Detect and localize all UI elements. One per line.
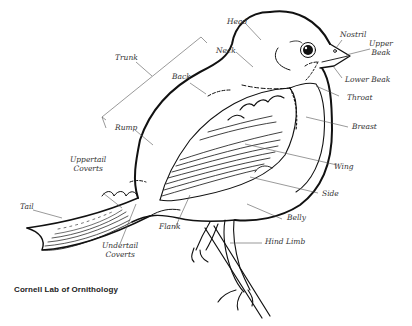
label-nostril: Nostril (340, 31, 366, 40)
label-uppertail-coverts: Uppertail Coverts (70, 156, 106, 173)
wing (160, 88, 296, 201)
leader-lines (33, 24, 370, 244)
label-back: Back (172, 73, 191, 82)
label-upper-beak-line2: Beak (369, 49, 393, 58)
under-body (132, 209, 235, 222)
eye (290, 41, 316, 58)
label-belly: Belly (287, 214, 306, 223)
label-wing: Wing (334, 163, 354, 172)
label-upper-beak: Upper Beak (369, 40, 393, 57)
beak (320, 44, 350, 68)
bird-topography-diagram: Head Neck Nostril Upper Beak Lower Beak … (0, 0, 412, 326)
label-hind-limb: Hind Limb (265, 238, 305, 247)
label-uppertail-line2: Coverts (70, 165, 106, 174)
label-undertail-line2: Coverts (102, 251, 138, 260)
label-neck: Neck (216, 47, 236, 56)
label-side: Side (322, 190, 339, 199)
uppertail-coverts (102, 181, 146, 199)
label-undertail-coverts: Undertail Coverts (102, 242, 138, 259)
label-head: Head (227, 18, 247, 27)
label-throat: Throat (347, 94, 372, 103)
label-rump: Rump (115, 124, 137, 133)
legs (192, 220, 253, 310)
label-breast: Breast (352, 123, 377, 132)
label-tail: Tail (20, 203, 34, 212)
credit-text: Cornell Lab of Ornithology (14, 285, 118, 294)
label-trunk: Trunk (115, 54, 138, 63)
label-lower-beak: Lower Beak (345, 76, 390, 85)
label-flank: Flank (159, 223, 180, 232)
